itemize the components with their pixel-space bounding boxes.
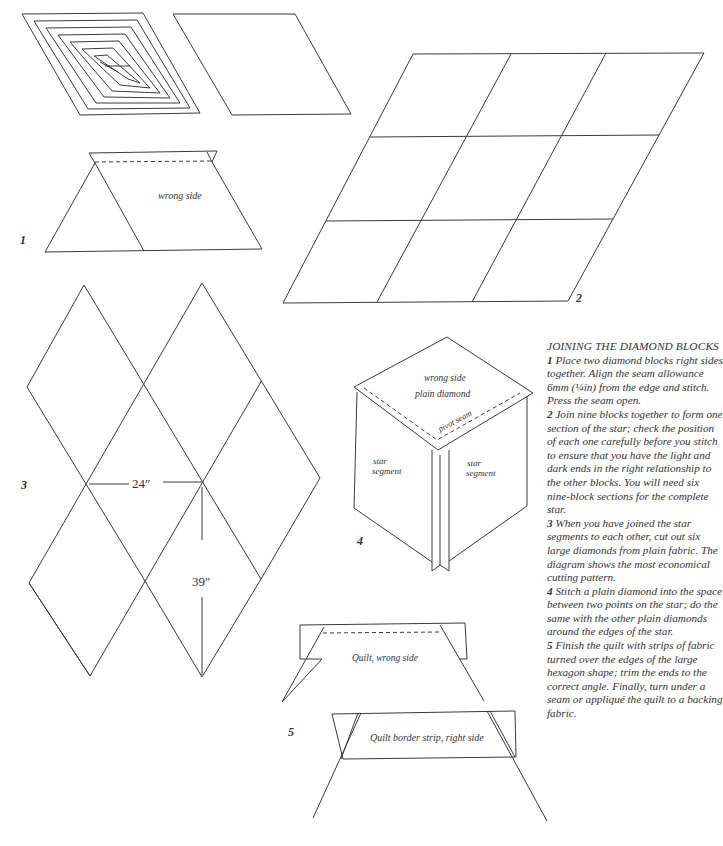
border-strip-label: Quilt border strip, right side: [370, 732, 484, 743]
step-5: 5 Finish the quilt with strips of fabric…: [547, 639, 723, 721]
figure-5-border-strips: Quilt, wrong side Quilt border strip, ri…: [282, 623, 547, 821]
figure-1-join-blocks: wrong side 1: [20, 151, 262, 252]
quilt-wrong-side-label: Quilt, wrong side: [352, 653, 418, 663]
figure-2-nine-block-grid: 2: [283, 53, 704, 305]
step-1: 1 Place two diamond blocks right sides t…: [547, 354, 723, 408]
plain-diamond-block: [173, 14, 351, 115]
figure-number-4: 4: [356, 534, 363, 548]
figure-3-cutting-pattern: 24″ 39″ 3: [20, 283, 320, 677]
pivot-seam-label: pivot seam: [435, 408, 473, 434]
plain-diamond-label: plain diamond: [414, 389, 470, 399]
log-cabin-diamond-block: [22, 13, 200, 115]
step-2: 2 Join nine blocks together to form one …: [547, 408, 723, 517]
height-measurement: 39″: [192, 574, 210, 589]
star-segment-right-label: star: [467, 458, 482, 468]
instructions-text: Joining the diamond blocks 1 Place two d…: [547, 340, 723, 721]
figure-4-insert-diamond: wrong side plain diamond pivot seam star…: [354, 337, 533, 571]
step-4: 4 Stitch a plain diamond into the space …: [547, 585, 723, 639]
star-segment-left-label: star: [373, 456, 388, 466]
step-3: 3 When you have joined the star segments…: [547, 517, 723, 585]
svg-text:segment: segment: [466, 468, 496, 478]
svg-text:segment: segment: [372, 466, 402, 476]
figure-number-5: 5: [288, 725, 294, 739]
width-measurement: 24″: [132, 476, 150, 491]
figure-number-3: 3: [20, 478, 27, 492]
figure-number-1: 1: [20, 233, 26, 247]
instructions-heading: Joining the diamond blocks: [547, 340, 723, 354]
wrong-side-label: wrong side: [158, 190, 202, 201]
wrong-side-label-fig4: wrong side: [424, 373, 466, 383]
figure-number-2: 2: [575, 291, 582, 305]
